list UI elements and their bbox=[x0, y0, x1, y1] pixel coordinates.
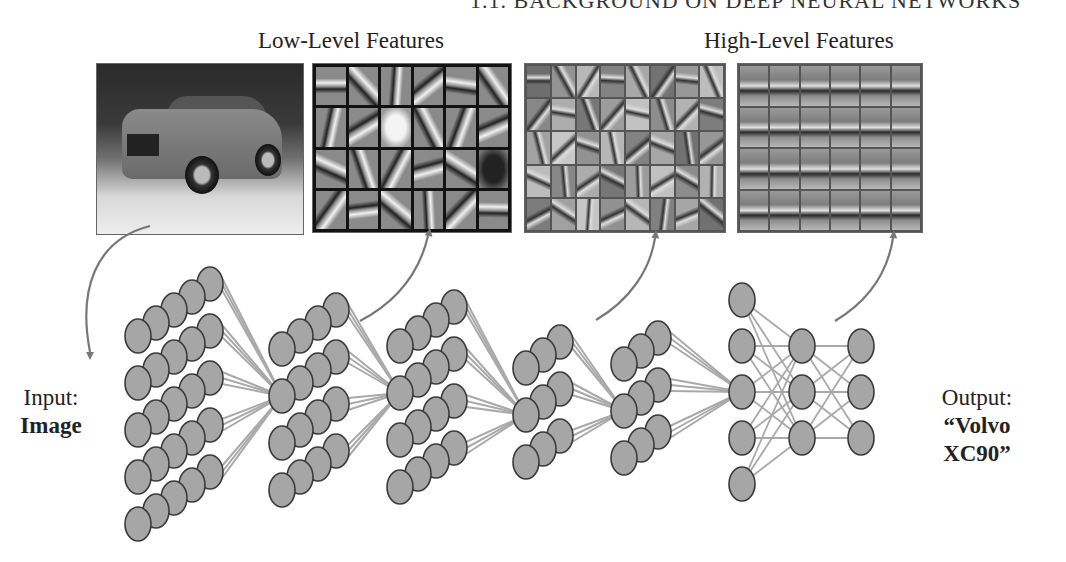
input-label-line2: Image bbox=[6, 412, 96, 440]
neuron-node bbox=[387, 470, 413, 504]
arrowhead-icon bbox=[651, 230, 659, 238]
neuron-node bbox=[269, 379, 295, 413]
neuron-node bbox=[789, 421, 815, 455]
neuron-node bbox=[611, 441, 637, 475]
curved-arrow bbox=[596, 238, 655, 320]
neuron-node bbox=[729, 421, 755, 455]
curved-arrow bbox=[835, 238, 893, 321]
neuron-node bbox=[789, 375, 815, 409]
output-label-line2: “Volvo XC90” bbox=[912, 412, 1042, 468]
neuron-node bbox=[269, 332, 295, 366]
neuron-node bbox=[729, 329, 755, 363]
input-label-line1: Input: bbox=[6, 384, 96, 412]
neuron-node bbox=[125, 507, 151, 541]
neuron-node bbox=[848, 329, 874, 363]
neuron-node bbox=[848, 375, 874, 409]
neuron-node bbox=[513, 351, 539, 385]
arrowhead-icon bbox=[889, 230, 897, 238]
neuron-node bbox=[387, 329, 413, 363]
neuron-node bbox=[729, 283, 755, 317]
output-label-line1: Output: bbox=[912, 384, 1042, 412]
neuron-node bbox=[513, 445, 539, 479]
arrowhead-icon bbox=[425, 228, 433, 237]
network-diagram bbox=[0, 0, 1066, 562]
neuron-node bbox=[789, 329, 815, 363]
input-label: Input: Image bbox=[6, 384, 96, 440]
curved-arrow bbox=[360, 236, 428, 321]
neuron-node bbox=[125, 413, 151, 447]
connection-edge bbox=[742, 346, 802, 484]
neuron-node bbox=[848, 421, 874, 455]
neuron-node bbox=[387, 423, 413, 457]
neuron-node bbox=[387, 376, 413, 410]
neuron-node bbox=[729, 467, 755, 501]
neuron-node bbox=[513, 398, 539, 432]
output-label: Output: “Volvo XC90” bbox=[912, 384, 1042, 468]
neuron-node bbox=[269, 426, 295, 460]
neuron-node bbox=[125, 319, 151, 353]
neuron-node bbox=[125, 366, 151, 400]
neuron-node bbox=[611, 347, 637, 381]
arrowhead-icon bbox=[86, 352, 94, 360]
neuron-node bbox=[125, 460, 151, 494]
neuron-node bbox=[729, 375, 755, 409]
neuron-node bbox=[269, 473, 295, 507]
neuron-node bbox=[611, 394, 637, 428]
